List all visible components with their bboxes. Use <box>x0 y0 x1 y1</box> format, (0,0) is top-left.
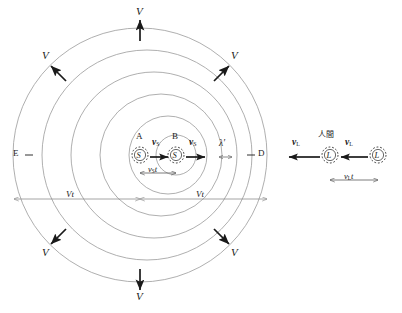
v-arrow-bottom-right <box>214 229 229 244</box>
v-arrow-top-right <box>214 66 229 81</box>
listener-caption: 人間 <box>318 131 334 139</box>
v-label-top: V <box>136 6 143 17</box>
point-label-b: B <box>172 132 178 141</box>
doppler-effect-figure <box>0 0 402 313</box>
listener-marker-right: L <box>375 151 380 160</box>
v-label-bottom-right: V <box>231 247 238 258</box>
wavelength-prime-label: λ′ <box>219 139 225 149</box>
source-marker-a: S <box>137 151 141 160</box>
source-velocity-label-b: vS <box>189 138 197 148</box>
listener-velocity-label-right: vL <box>345 138 353 148</box>
listener-marker-left: L <box>327 151 332 160</box>
source-velocity-label-a: vS <box>152 138 160 148</box>
v-arrow-top-left <box>51 66 66 81</box>
wavefront-2 <box>42 50 252 260</box>
v-label-top-left: V <box>42 50 49 61</box>
wavefront-3 <box>71 72 237 238</box>
v-arrow-bottom-left <box>51 229 66 244</box>
vt-label-left: Vt <box>66 190 74 199</box>
listener-velocity-label-left: vL <box>292 138 300 148</box>
source-marker-b: S <box>173 151 177 160</box>
v-label-bottom-left: V <box>42 247 49 258</box>
point-label-d: D <box>258 149 265 158</box>
vst-dimension-label: vSt <box>148 165 157 174</box>
point-label-e: E <box>13 149 19 158</box>
vlt-dimension-label: vLt <box>344 172 353 181</box>
vt-label-right: Vt <box>196 190 204 199</box>
v-label-top-right: V <box>231 50 238 61</box>
point-label-a: A <box>136 132 143 141</box>
v-label-bottom: V <box>136 291 143 302</box>
